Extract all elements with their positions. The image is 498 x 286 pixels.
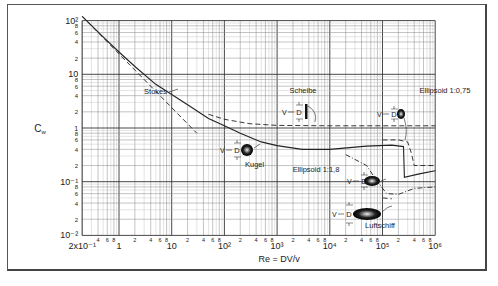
y-minor-label: 8 [75, 77, 79, 83]
scheibe-v-d-marker: VD [282, 102, 303, 122]
y-minor-label: 2 [75, 217, 79, 223]
svg-text:V: V [377, 111, 382, 118]
x-minor-label: 8 [218, 237, 221, 243]
svg-text:D: D [391, 110, 397, 119]
x-minor-label: 6 [264, 237, 267, 243]
x-minor-label: 8 [112, 237, 115, 243]
y-minor-label: 8 [75, 184, 79, 190]
svg-text:V: V [282, 109, 287, 116]
ellipsoid-075-label: Ellipsoid 1:0,75 [420, 86, 471, 95]
y-minor-label: 8 [75, 131, 79, 137]
y-minor-label: 4 [75, 93, 79, 99]
x-minor-label: 2 [344, 237, 347, 243]
x-minor-label: 6 [317, 237, 320, 243]
x-tick-label: 10 [167, 241, 177, 251]
y-minor-label: 2 [75, 109, 79, 115]
x-minor-label: 4 [307, 237, 310, 243]
x-minor-label: 8 [376, 237, 379, 243]
luftschiff-label: Luftschiff [365, 221, 396, 230]
curve-ellipsoid-1-1-8 [346, 155, 436, 195]
svg-text:V: V [220, 147, 225, 154]
x-minor-label: 2 [397, 237, 400, 243]
x-minor-label: 2 [186, 237, 189, 243]
airship-shape-icon [353, 208, 381, 220]
x-tick-label: 1 [116, 241, 121, 251]
x-tick-label: 2x10⁻¹ [68, 241, 96, 251]
disc-shape-icon [305, 104, 308, 119]
svg-text:V: V [332, 211, 337, 218]
x-minor-label: 8 [165, 237, 168, 243]
y-minor-label: 2 [75, 56, 79, 62]
x-minor-label: 4 [202, 237, 205, 243]
y-minor-label: 6 [75, 191, 79, 197]
sphere-shape-icon [241, 144, 253, 156]
drag-coefficient-chart: 10²10110⁻¹10⁻²24682468246824682x10⁻¹1101… [0, 0, 498, 286]
y-minor-label: 2 [75, 163, 79, 169]
scheibe-label: Scheibe [289, 86, 316, 95]
x-minor-label: 4 [96, 237, 99, 243]
kugel-label: Kugel [245, 160, 265, 169]
y-tick-label: 10⁻² [60, 230, 78, 240]
ellipsoid-18-shape-icon [364, 176, 380, 186]
svg-text:D: D [346, 210, 352, 219]
x-minor-label: 6 [369, 237, 372, 243]
y-minor-label: 6 [75, 30, 79, 36]
x-minor-label: 6 [158, 237, 161, 243]
svg-text:V: V [347, 178, 352, 185]
stokes-label: Stokes [144, 87, 167, 96]
y-minor-label: 4 [75, 39, 79, 45]
y-minor-label: 8 [75, 23, 79, 29]
luftschiff-v-d-marker: VD [332, 202, 353, 226]
x-minor-label: 8 [323, 237, 326, 243]
x-minor-label: 2 [291, 237, 294, 243]
curve-ellipsoid-1-0-75 [383, 140, 436, 166]
y-minor-label: 6 [75, 84, 79, 90]
x-minor-label: 2 [239, 237, 242, 243]
x-minor-label: 6 [422, 237, 425, 243]
svg-text:D: D [296, 108, 302, 117]
grid [82, 21, 435, 236]
y-minor-label: 4 [75, 201, 79, 207]
y-axis-label: Cw [34, 123, 46, 135]
x-minor-label: 2 [133, 237, 136, 243]
x-minor-label: 4 [360, 237, 363, 243]
x-minor-label: 6 [211, 237, 214, 243]
y-minor-label: 4 [75, 147, 79, 153]
ellipsoid-18-label: Ellipsoid 1:1,8 [293, 165, 340, 174]
x-minor-label: 6 [106, 237, 109, 243]
x-axis-label: Re = DV/v [258, 254, 300, 264]
y-minor-label: 6 [75, 137, 79, 143]
svg-text:D: D [234, 146, 240, 155]
x-minor-label: 4 [255, 237, 258, 243]
x-minor-label: 4 [413, 237, 416, 243]
kugel-v-d-marker: VD [220, 140, 241, 160]
ellipsoid-075-shape-icon [397, 109, 405, 119]
x-minor-label: 8 [270, 237, 273, 243]
x-minor-label: 4 [149, 237, 152, 243]
x-minor-label: 8 [429, 237, 432, 243]
